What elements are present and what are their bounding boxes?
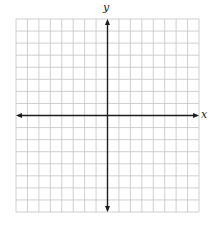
axes [16, 19, 199, 212]
grid-svg [0, 0, 215, 228]
y-axis-label: y [103, 2, 109, 13]
arrow-left-icon [16, 113, 22, 118]
arrow-down-icon [105, 206, 110, 212]
coordinate-plane: y x [0, 0, 215, 228]
x-axis-label: x [201, 109, 207, 120]
arrow-up-icon [105, 19, 110, 25]
arrow-right-icon [193, 113, 199, 118]
